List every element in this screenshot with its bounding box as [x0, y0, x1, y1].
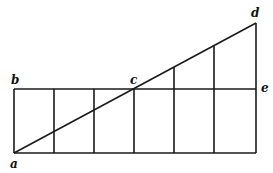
label-a: a: [10, 157, 18, 171]
label-d: d: [251, 6, 260, 20]
label-e: e: [261, 81, 269, 95]
diagonal-a-d: [14, 23, 256, 153]
label-c: c: [130, 73, 138, 87]
diagram-canvas: b a c d e: [0, 0, 273, 173]
label-b: b: [11, 73, 19, 87]
